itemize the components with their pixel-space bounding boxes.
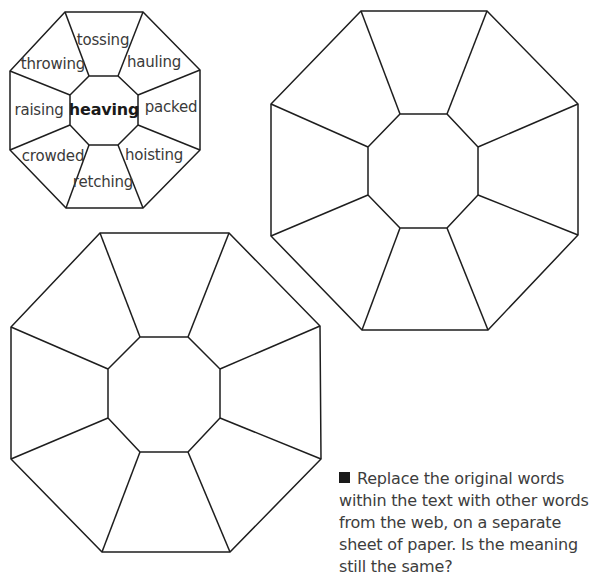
blank-octagon-bottom-left-outer (11, 233, 321, 552)
word-bottom: retching (73, 175, 133, 190)
square-bullet-icon (339, 472, 350, 483)
blank-octagon-right (271, 11, 578, 330)
word-bottom-right: hoisting (125, 148, 183, 163)
word-top-right: hauling (127, 55, 181, 70)
blank-octagon-right-spokes (271, 11, 578, 330)
blank-octagon-right-inner (368, 114, 478, 228)
word-left: raising (14, 103, 63, 118)
center-word: heaving (69, 102, 139, 118)
word-right: packed (145, 100, 198, 115)
word-top: tossing (77, 33, 129, 48)
blank-octagon-right-outer (271, 11, 578, 330)
word-top-left: throwing (21, 57, 85, 72)
instruction-paragraph: Replace the original words within the te… (339, 468, 589, 576)
word-bottom-left: crowded (22, 149, 84, 164)
instruction-text: Replace the original words within the te… (339, 469, 589, 576)
blank-octagon-bottom-left-inner (108, 337, 220, 452)
blank-octagon-bottom-left-spokes (11, 233, 321, 552)
blank-octagon-bottom-left (11, 233, 321, 552)
